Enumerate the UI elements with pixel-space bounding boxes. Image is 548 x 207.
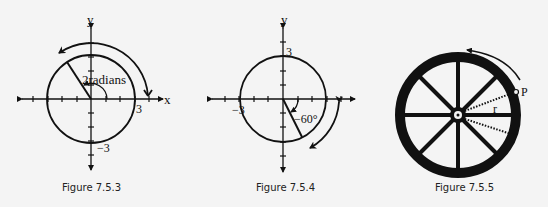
figure-7-5-3: y x 2radians 3 −3 Figure 7.5.3 (22, 12, 171, 193)
neg-y-label: −3 (97, 141, 110, 155)
figure-caption: Figure 7.5.3 (62, 182, 121, 193)
figure-caption: Figure 7.5.4 (256, 182, 315, 193)
radius-label: r (493, 102, 497, 116)
pos-y-label: 3 (286, 45, 292, 59)
point-p (514, 90, 519, 95)
y-axis-label: y (281, 12, 288, 27)
figure-7-5-5: P r Figure 7.5.5 (400, 50, 528, 193)
angle-arc (291, 99, 298, 112)
x-axis-label: x (164, 92, 171, 107)
y-axis-label: y (87, 12, 94, 27)
angle-label: −60° (294, 112, 318, 126)
neg-x-label: −3 (232, 103, 245, 117)
figures-canvas: y x 2radians 3 −3 Figure 7.5.3 (0, 0, 548, 207)
radius-label: 3 (136, 102, 142, 116)
angle-label: 2radians (82, 72, 126, 87)
point-label: P (521, 85, 528, 99)
figure-caption: Figure 7.5.5 (435, 182, 494, 193)
figure-7-5-4: y 3 −3 −60° Figure 7.5.4 (212, 12, 355, 193)
